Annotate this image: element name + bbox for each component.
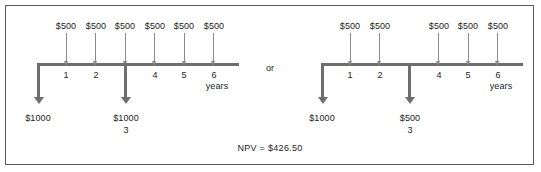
timeline-right-inflow-label-4: $500 (429, 21, 449, 31)
timeline-right-inflow-arrow-4 (438, 33, 439, 61)
timeline-right-inflow-arrow-1 (350, 33, 351, 61)
timeline-right-outflow-arrow-period3 (408, 63, 411, 97)
npv-result-label: NPV = $426.50 (237, 143, 302, 153)
timeline-right-tick-label-4: 4 (436, 70, 441, 80)
timeline-right-tick-label-2: 2 (377, 70, 382, 80)
timeline-right-tick-label-1: 1 (347, 70, 352, 80)
timeline-right-inflow-arrow-2 (379, 33, 380, 61)
timeline-right-outflow-period3-number: 3 (407, 125, 412, 135)
timeline-right-outflow-label-period3: $500 (400, 113, 420, 123)
timeline-right-outflow-arrow-period0 (321, 63, 324, 97)
timeline-right-axis-unit-label: years (490, 81, 513, 91)
timeline-right-tick-label-5: 5 (465, 70, 470, 80)
timeline-right-outflow-label-period0: $1000 (309, 113, 335, 123)
timeline-right-inflow-label-2: $500 (370, 21, 390, 31)
timeline-right-inflow-arrow-6 (497, 33, 498, 61)
timeline-right-tick-label-6: 6 (495, 70, 500, 80)
cash-flow-diagram: $500 $500 $500 $500 $500 $500 1 2 4 5 6 … (0, 0, 541, 172)
timeline-right-inflow-label-6: $500 (488, 21, 508, 31)
timeline-right-inflow-arrow-5 (468, 33, 469, 61)
timeline-right-inflow-label-1: $500 (340, 21, 360, 31)
timeline-right-inflow-label-5: $500 (458, 21, 478, 31)
